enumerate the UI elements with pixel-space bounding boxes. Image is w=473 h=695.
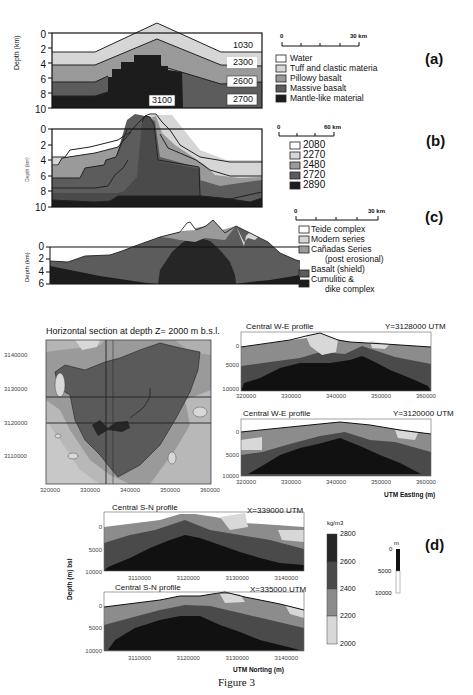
x-tick: 3130000 bbox=[226, 575, 249, 581]
we-profile-2-coord: Y=3120000 UTM bbox=[393, 409, 454, 418]
we-profile-2-x-ticks: 320000 330000 340000 350000 360000 bbox=[236, 479, 436, 485]
x-tick: 360000 bbox=[200, 487, 220, 493]
y-tick: 3120000 bbox=[4, 420, 27, 426]
x-tick: 350000 bbox=[371, 393, 391, 399]
x-tick: 360000 bbox=[416, 479, 436, 485]
x-tick: 330000 bbox=[281, 393, 301, 399]
x-tick: 340000 bbox=[326, 479, 346, 485]
sn-profile-2-coord: X=335000 UTM bbox=[250, 585, 306, 594]
x-tick: 330000 bbox=[80, 487, 100, 493]
y-tick: 0 bbox=[225, 343, 239, 349]
horizontal-section-x-ticks: 320000 330000 340000 350000 360000 bbox=[40, 487, 220, 493]
sn-profile-1 bbox=[104, 512, 304, 571]
x-tick: 330000 bbox=[281, 479, 301, 485]
y-tick: 5000 bbox=[218, 452, 239, 458]
vertical-scale-tick: 0 bbox=[389, 546, 392, 552]
x-tick: 340000 bbox=[326, 393, 346, 399]
y-tick: 0 bbox=[225, 429, 239, 435]
x-tick: 320000 bbox=[236, 479, 256, 485]
y-tick: 10000 bbox=[218, 386, 239, 392]
horizontal-section-map bbox=[46, 340, 211, 484]
we-profile-2-title: Central W-E profile bbox=[243, 409, 310, 418]
y-tick: 5000 bbox=[81, 547, 102, 553]
horizontal-section-title: Horizontal section at depth Z= 2000 m b.… bbox=[46, 326, 220, 336]
we-profile-1-coord: Y=3128000 UTM bbox=[385, 322, 446, 331]
y-tick: 5000 bbox=[81, 625, 102, 631]
y-tick: 10000 bbox=[81, 569, 102, 575]
y-tick: 0 bbox=[88, 524, 102, 530]
we-x-axis-label: UTM Easting (m) bbox=[384, 491, 435, 498]
y-tick: 3130000 bbox=[4, 386, 27, 392]
vertical-scale-unit: m bbox=[394, 540, 399, 546]
colorbar-tick: 2200 bbox=[340, 612, 356, 619]
x-tick: 350000 bbox=[160, 487, 180, 493]
x-tick: 320000 bbox=[236, 393, 256, 399]
vertical-scale-tick: 5000 bbox=[378, 568, 391, 574]
x-tick: 3110000 bbox=[128, 655, 151, 661]
we-profile-1-x-ticks: 320000 330000 340000 350000 360000 bbox=[236, 393, 436, 399]
sn-y-axis-label: Depth (m) bsl bbox=[66, 558, 73, 600]
colorbar-tick: 2400 bbox=[340, 585, 356, 592]
colorbar-tick: 2600 bbox=[340, 558, 356, 565]
sn-profile-2-x-ticks: 3110000 3120000 3130000 3140000 bbox=[128, 655, 298, 661]
sn-x-axis-label: UTM Norting (m) bbox=[233, 666, 284, 673]
panel-d-label: (d) bbox=[425, 536, 444, 553]
sn-profile-2-title: Central S-N profile bbox=[115, 583, 181, 592]
sn-profile-1-title: Central S-N profile bbox=[112, 503, 178, 512]
figure-caption: Figure 3 bbox=[0, 676, 473, 688]
x-tick: 3120000 bbox=[177, 655, 200, 661]
sn-profile-2 bbox=[104, 592, 304, 651]
colorbar-tick: 2800 bbox=[340, 530, 356, 537]
x-tick: 360000 bbox=[416, 393, 436, 399]
vertical-scale-tick: 10000 bbox=[375, 590, 392, 596]
x-tick: 3130000 bbox=[226, 655, 249, 661]
colorbar-tick: 2000 bbox=[340, 640, 356, 647]
y-tick: 3140000 bbox=[4, 352, 27, 358]
we-profile-1 bbox=[241, 332, 431, 391]
x-tick: 3120000 bbox=[177, 575, 200, 581]
we-profile-1-title: Central W-E profile bbox=[246, 322, 313, 331]
x-tick: 3110000 bbox=[128, 575, 151, 581]
colorbar-unit: kg/m3 bbox=[327, 520, 343, 526]
we-profile-2 bbox=[241, 419, 431, 476]
x-tick: 3140000 bbox=[275, 655, 298, 661]
y-tick: 3110000 bbox=[4, 453, 27, 459]
sn-profile-1-coord: X=339000 UTM bbox=[247, 506, 303, 515]
x-tick: 3140000 bbox=[275, 575, 298, 581]
x-tick: 320000 bbox=[40, 487, 60, 493]
y-tick: 10000 bbox=[81, 648, 102, 654]
colorbar bbox=[327, 534, 337, 644]
y-tick: 5000 bbox=[218, 362, 239, 368]
x-tick: 350000 bbox=[371, 479, 391, 485]
y-tick: 0 bbox=[88, 603, 102, 609]
sn-profile-1-x-ticks: 3110000 3120000 3130000 3140000 bbox=[128, 575, 298, 581]
x-tick: 340000 bbox=[120, 487, 140, 493]
